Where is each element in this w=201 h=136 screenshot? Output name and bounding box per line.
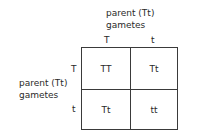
column-gamete-1: T [104,35,110,45]
cell-TT: TT [82,64,130,74]
left-parent-line2: gametes [19,90,67,100]
punnett-square: TT Tt Tt tt [81,47,178,130]
cell-tt: tt [130,105,178,115]
top-parent-label: parent (Tt) gametes [106,8,154,30]
cell-Tt-top: Tt [130,64,178,74]
horizontal-divider [82,89,177,90]
row-gamete-2: t [72,104,76,114]
top-parent-line1: parent (Tt) [106,8,154,18]
column-gamete-2: t [151,35,155,45]
left-parent-line1: parent (Tt) [19,78,67,88]
row-gamete-1: T [71,64,77,74]
cell-Tt-bottom: Tt [82,105,130,115]
left-parent-label: parent (Tt) gametes [19,78,67,100]
top-parent-line2: gametes [106,20,154,30]
